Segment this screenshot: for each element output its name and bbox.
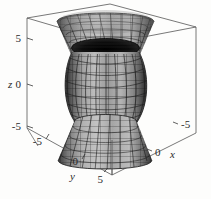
y-tick-label-0: 0 [73,155,79,167]
z-axis-label: z [7,78,13,90]
top-rim-ellipse [57,10,154,34]
y-tick-neg5 [46,134,49,139]
y-axis-label: y [69,170,75,182]
x-tick-label-neg5: -5 [181,118,191,130]
surface-bottom-flare [54,110,158,174]
x-tick-neg5 [173,122,178,124]
surface-plot-figure: 5 0 -5 z -5 0 5 y -5 0 x [0,0,211,199]
x-tick-label-0: 0 [155,146,161,158]
z-tick-0 [27,84,33,86]
z-tick-label-0: 0 [16,78,22,90]
x-axis-label: x [169,148,175,160]
z-tick-label-5: 5 [16,32,22,44]
plot-canvas: 5 0 -5 z -5 0 5 y -5 0 x [0,0,211,199]
z-tick-5 [27,38,33,40]
z-tick-label-neg5: -5 [12,120,22,132]
y-tick-label-5: 5 [98,173,104,185]
z-tick-neg5 [27,126,33,128]
y-tick-label-neg5: -5 [33,135,43,147]
